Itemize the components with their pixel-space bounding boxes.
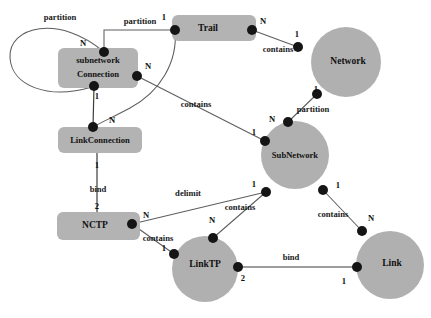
- node-subnetwork-connection-label-line1: subnetwork: [76, 55, 120, 65]
- dot-subnetwork-bottom-right[interactable]: [318, 185, 328, 195]
- edge-label-bind-linktp-link: bind: [283, 252, 300, 262]
- card-linktp-top-n: N: [209, 215, 216, 225]
- dot-snc-top[interactable]: [99, 47, 109, 57]
- edge-label-contains-snc-subnetwork: contains: [181, 99, 212, 109]
- edge-label-contains-subnetwork-link: contains: [318, 209, 349, 219]
- card-subnetwork-left-1: 1: [252, 127, 256, 137]
- card-snc-right-n: N: [145, 61, 152, 71]
- card-nctp-2: 2: [95, 201, 99, 211]
- edge-label-contains-subnetwork-linktp: contains: [225, 202, 256, 212]
- dot-trail-left[interactable]: [170, 25, 180, 35]
- node-link-label: Link: [382, 258, 402, 268]
- dot-network-left[interactable]: [293, 42, 303, 52]
- dot-link-top[interactable]: [357, 226, 367, 236]
- dot-linkconnection-top[interactable]: [88, 122, 98, 132]
- edge-label-delimit-nctp-subnetwork: delimit: [175, 188, 201, 198]
- dot-snc-bottom[interactable]: [89, 81, 99, 91]
- card-snc-top-n: N: [80, 38, 87, 48]
- node-link-connection-label: LinkConnection: [70, 135, 130, 145]
- card-linkconnection-n: N: [109, 115, 116, 125]
- card-trail-right-n: N: [260, 16, 267, 26]
- node-network-label: Network: [330, 56, 366, 66]
- card-linktp-left-1: 1: [162, 243, 166, 253]
- card-subnetwork-top-n: N: [269, 114, 276, 124]
- dot-snc-right[interactable]: [132, 71, 142, 81]
- node-subnetwork-label: SubNetwork: [272, 150, 319, 160]
- diagram-canvas: subnetwork Connection Trail LinkConnecti…: [0, 0, 431, 318]
- card-link-left-1: 1: [342, 276, 346, 286]
- dot-subnetwork-bottom-left[interactable]: [261, 187, 271, 197]
- node-linktp-label: LinkTP: [189, 259, 221, 269]
- edge-label-partition-trail: partition: [124, 16, 157, 26]
- edge-label-bind-linkconnection-nctp: bind: [90, 184, 107, 194]
- card-subnetwork-bottom-left-1: 1: [252, 179, 256, 189]
- node-trail-label: Trail: [198, 23, 218, 33]
- card-trail-left-1: 1: [162, 12, 166, 22]
- nodes-layer: subnetwork Connection Trail LinkConnecti…: [57, 15, 424, 302]
- card-subnetwork-bottom-right-1: 1: [336, 180, 340, 190]
- edge-label-contains-trail-network: contains: [263, 44, 294, 54]
- card-linktp-right-2: 2: [241, 273, 245, 283]
- dot-trail-right[interactable]: [247, 25, 257, 35]
- card-link-top-n: N: [368, 213, 375, 223]
- card-linkconnection-1: 1: [95, 160, 99, 170]
- card-network-bottom-1: 1: [314, 84, 318, 94]
- card-snc-bottom-1: 1: [95, 91, 99, 101]
- dot-linktp-top[interactable]: [208, 233, 218, 243]
- node-subnetwork-connection-label-line2: Connection: [77, 69, 119, 79]
- edge-label-partition-self: partition: [44, 12, 77, 22]
- edge-label-partition-network-subnetwork: partition: [297, 104, 330, 114]
- dot-link-left[interactable]: [352, 262, 362, 272]
- edge-snc-linkconnection[interactable]: [93, 86, 94, 127]
- dot-linktp-right[interactable]: [233, 262, 243, 272]
- card-network-left-1: 1: [295, 29, 299, 39]
- node-nctp-label: NCTP: [82, 220, 108, 230]
- dot-subnetwork-left[interactable]: [260, 136, 270, 146]
- dot-subnetwork-top[interactable]: [283, 117, 293, 127]
- card-nctp-n: N: [143, 210, 150, 220]
- dot-nctp-right[interactable]: [127, 219, 137, 229]
- diagram-svg: subnetwork Connection Trail LinkConnecti…: [0, 0, 431, 318]
- dot-linktp-left[interactable]: [169, 249, 179, 259]
- edge-contains-subnetwork-linktp[interactable]: [213, 192, 266, 238]
- edge-label-contains-nctp-linktp: contains: [143, 233, 174, 243]
